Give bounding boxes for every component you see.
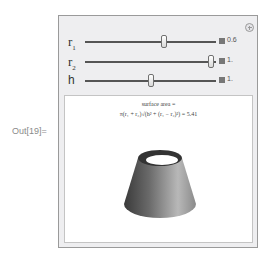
output-display: surface area = π(r₁ + r₂)√(h² + (r₁ − r₂… [64, 95, 253, 243]
slider-handle-r2[interactable] [208, 55, 214, 68]
surface-area-label: surface area = [65, 101, 252, 107]
slider-r1[interactable] [85, 41, 216, 43]
slider-r2[interactable] [85, 61, 216, 63]
animate-toggle-icon[interactable] [219, 77, 225, 83]
plus-circle-icon[interactable] [245, 23, 254, 32]
slider-label-h: h [68, 73, 75, 87]
slider-row-r1: r1 0.6 [59, 34, 259, 50]
slider-value-r1: 0.6 [227, 36, 237, 43]
slider-label-r1: r1 [68, 34, 76, 52]
slider-row-r2: r2 1. [59, 54, 259, 70]
animate-toggle-icon[interactable] [219, 38, 225, 44]
slider-h[interactable] [85, 80, 216, 82]
manipulate-panel: r1 0.6 r2 1. h 1. surface area = π(r₁ + … [58, 15, 258, 248]
slider-handle-r1[interactable] [161, 35, 167, 48]
output-label: Out[19]= [12, 126, 47, 136]
animate-toggle-icon[interactable] [219, 58, 225, 64]
slider-value-r2: 1. [227, 56, 233, 63]
slider-value-h: 1. [227, 75, 233, 82]
slider-label-r2: r2 [68, 54, 76, 72]
surface-area-formula: π(r₁ + r₂)√(h² + (r₁ − r₂)²) = 5.41 [65, 111, 252, 117]
slider-row-h: h 1. [59, 73, 259, 89]
slider-handle-h[interactable] [148, 74, 154, 87]
truncated-cone-graphic [120, 146, 200, 226]
